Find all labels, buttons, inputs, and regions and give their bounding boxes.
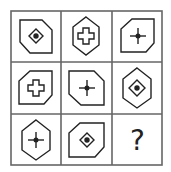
dot-icon: [85, 138, 89, 142]
cell-2-1: [69, 123, 104, 157]
cell-0-2: [121, 19, 154, 52]
dot-icon: [34, 34, 38, 38]
cell-2-0: [22, 120, 50, 160]
cell-0-1: [73, 17, 99, 55]
hexagon-shape-icon: [73, 17, 99, 55]
cell-1-0: [19, 71, 52, 104]
hollow-cross-icon: [28, 80, 44, 96]
dot-icon: [85, 86, 89, 90]
dot-icon: [136, 34, 140, 38]
pentagon-shape-icon: [19, 71, 52, 104]
cell-1-2: [123, 68, 151, 108]
dot-icon: [135, 86, 139, 90]
cell-1-1: [69, 71, 104, 105]
missing-cell-question-mark: ?: [112, 114, 163, 166]
hollow-cross-icon: [78, 28, 94, 44]
dot-icon: [34, 138, 38, 142]
cell-0-0: [20, 20, 52, 53]
